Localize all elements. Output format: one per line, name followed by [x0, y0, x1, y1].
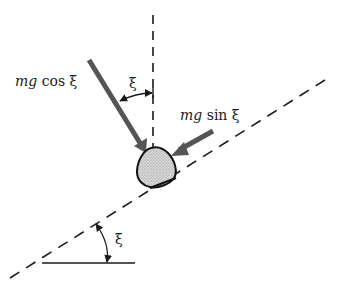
- normal-force-label: mg cos ξ: [15, 74, 77, 88]
- tangential-force-label-mg: mg: [180, 107, 202, 123]
- normal-force-label-mg: mg: [15, 73, 37, 89]
- normal-force-arrow-shaft: [89, 60, 140, 143]
- tangential-force-label: mg sin ξ: [180, 108, 240, 122]
- top-angle-arc: [120, 93, 152, 101]
- diagram-canvas: [0, 0, 354, 294]
- incline-angle-label: ξ: [115, 232, 123, 246]
- normal-force-label-rest: cos ξ: [37, 73, 77, 89]
- tangential-force-label-rest: sin ξ: [202, 107, 239, 123]
- incline-angle-arc: [96, 224, 108, 262]
- top-angle-label: ξ: [129, 76, 137, 90]
